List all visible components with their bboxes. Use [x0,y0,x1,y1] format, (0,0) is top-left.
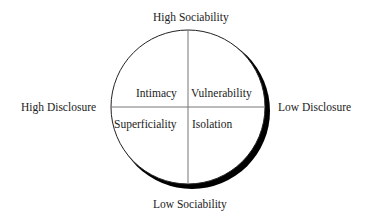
axis-label-top: High Sociability [153,12,229,24]
quadrant-label-superficiality: Superficiality [114,119,177,131]
quadrant-label-intimacy: Intimacy [136,88,177,100]
quadrant-label-vulnerability: Vulnerability [191,88,252,100]
axis-label-right: Low Disclosure [278,102,351,114]
axis-label-bottom: Low Sociability [153,199,227,211]
sociability-disclosure-diagram: High Sociability Low Sociability High Di… [0,0,377,222]
axis-label-left: High Disclosure [21,102,96,114]
quadrant-label-isolation: Isolation [192,119,232,131]
